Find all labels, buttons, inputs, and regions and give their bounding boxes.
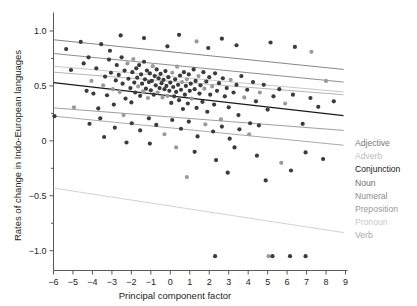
svg-text:−0.5: −0.5 [29, 191, 47, 201]
legend-item-noun[interactable]: Noun [355, 177, 417, 190]
svg-text:6: 6 [285, 277, 290, 287]
svg-text:3: 3 [226, 277, 231, 287]
svg-text:1.0: 1.0 [34, 26, 47, 36]
legend-item-pronoun[interactable]: Pronoun [355, 216, 417, 229]
svg-text:0: 0 [168, 277, 173, 287]
svg-text:−6: −6 [48, 277, 58, 287]
svg-text:7: 7 [304, 277, 309, 287]
svg-text:−4: −4 [87, 277, 97, 287]
svg-text:5: 5 [265, 277, 270, 287]
svg-text:9: 9 [343, 277, 348, 287]
svg-text:−1.0: −1.0 [29, 246, 47, 256]
legend-item-adjective[interactable]: Adjective [355, 137, 417, 150]
svg-text:0: 0 [41, 136, 46, 146]
svg-text:−5: −5 [68, 277, 78, 287]
legend-item-adverb[interactable]: Adverb [355, 150, 417, 163]
legend-item-numeral[interactable]: Numeral [355, 190, 417, 203]
svg-text:−3: −3 [107, 277, 117, 287]
legend: AdjectiveAdverbConjunctionNounNumeralPre… [355, 137, 417, 243]
axes [50, 13, 348, 275]
svg-text:8: 8 [324, 277, 329, 287]
svg-text:−2: −2 [126, 277, 136, 287]
svg-text:−1: −1 [146, 277, 156, 287]
legend-item-verb[interactable]: Verb [355, 229, 417, 242]
x-axis-title: Principal component factor [0, 290, 350, 301]
svg-text:4: 4 [246, 277, 251, 287]
legend-item-conjunction[interactable]: Conjunction [355, 163, 417, 176]
y-axis-title: Rates of change in Indo-European languag… [12, 16, 23, 276]
chart-figure: −6−5−4−3−2−10123456789−1.0−0.500.51.0 Pr… [0, 0, 417, 306]
legend-item-preposition[interactable]: Preposition [355, 203, 417, 216]
svg-text:0.5: 0.5 [34, 81, 47, 91]
svg-text:2: 2 [207, 277, 212, 287]
svg-text:1: 1 [187, 277, 192, 287]
